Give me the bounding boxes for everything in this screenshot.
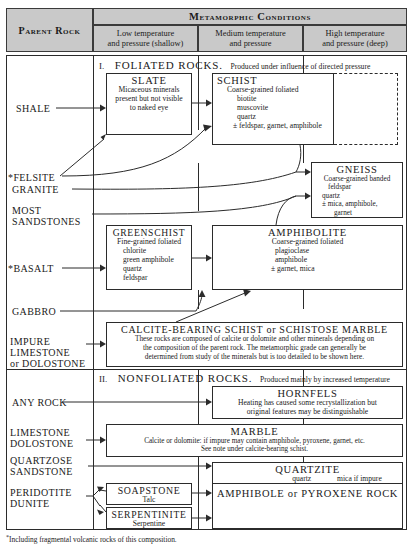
box-quartzite-line2: mica if impure — [337, 474, 382, 483]
box-amphibolite-line4: ± garnet, mica — [213, 265, 402, 274]
metamorphic-rock-chart: Parent Rock Metamorphic Conditions Low t… — [0, 0, 413, 554]
parent-rock-impure-limestone-dolostone: IMPURE LIMESTONE or DOLOSTONE — [10, 336, 85, 369]
fork-peridotite-down — [93, 496, 100, 506]
box-greenschist-line4: quartz — [107, 265, 191, 274]
box-marble-name: MARBLE — [107, 426, 402, 437]
parent-rock-granite: GRANITE — [12, 184, 59, 195]
curve-sandstones-to-gneiss — [92, 196, 296, 214]
curve-granite-to-gneiss — [72, 172, 296, 189]
rule-medium-high-divider-mid — [303, 290, 304, 309]
parent-rock-impure: IMPURE — [10, 336, 50, 347]
header-column-medium: Medium temperature and pressure — [198, 25, 303, 52]
box-gneiss: GNEISS Coarse-grained banded feldspar qu… — [311, 162, 403, 218]
diagonal-calcite-to-amphibolite — [176, 293, 245, 322]
box-marble-line1: Calcite or dolomite: if impure may conta… — [107, 437, 402, 445]
footnote: *Including fragmental volcanic rocks of … — [6, 534, 177, 544]
parent-rock-or-dolostone: or DOLOSTONE — [10, 358, 85, 369]
parent-rock-most-sandstones: MOST SANDSTONES — [12, 205, 81, 227]
box-gneiss-name: GNEISS — [312, 164, 402, 175]
box-amphibole-pyroxene-name: AMPHIBOLE or PYROXENE ROCK — [213, 488, 402, 499]
curve-felsite-to-schist — [62, 128, 206, 176]
parent-rock-shale: SHALE — [16, 103, 50, 114]
box-greenschist: GREENSCHIST Fine-grained foliated chlori… — [106, 225, 192, 290]
arrow-gabbro-to-amphibolite-head — [199, 290, 206, 297]
box-greenschist-line1: Fine-grained foliated — [107, 238, 191, 247]
header-metamorphic-conditions-cell: Metamorphic Conditions — [93, 8, 407, 25]
header-parent-rock-cell: Parent Rock — [6, 8, 93, 52]
section-nonfoliated-tail: Produced mainly by increased temperature — [260, 375, 390, 384]
rule-parent-rock-divider — [93, 55, 94, 530]
box-marble: MARBLE Calcite or dolomite: if impure ma… — [106, 424, 403, 457]
box-calcite-line3: determined from study of the minerals bu… — [107, 353, 402, 362]
parent-rock-most: MOST — [12, 205, 41, 216]
box-serpentinite-line1: Serpentine — [107, 520, 191, 529]
box-hornfels-line2: original features may be distinguishable — [213, 408, 402, 417]
parent-rock-any-rock: ANY ROCK — [12, 397, 67, 408]
header-parent-rock-label: Parent Rock — [19, 25, 81, 36]
parent-rock-sandstone-2: SANDSTONE — [10, 466, 73, 477]
box-calcite-bearing-schist: CALCITE-BEARING SCHIST or SCHISTOSE MARB… — [106, 322, 403, 367]
rule-between-sections — [6, 369, 407, 370]
box-soapstone: SOAPSTONE Talc — [106, 483, 192, 505]
header-column-high-line1: High temperature — [322, 29, 388, 38]
box-schist-line3: muscovite — [213, 104, 333, 113]
header-column-medium-line1: Medium temperature — [215, 29, 285, 38]
section-nonfoliated-numeral: II. — [99, 374, 107, 384]
parent-rock-quartzose-sandstone: QUARTZOSE SANDSTONE — [10, 455, 73, 477]
box-greenschist-line3: green amphibole — [107, 256, 191, 265]
section-nonfoliated-title: NONFOLIATED ROCKS. — [118, 372, 253, 384]
section-heading-nonfoliated: II. NONFOLIATED ROCKS. Produced mainly b… — [99, 372, 390, 384]
box-amphibolite-line2: plagioclase — [213, 247, 402, 256]
curve-gabbro-up — [196, 294, 202, 311]
box-schist-dashed-extension — [334, 73, 398, 145]
parent-rock-felsite: *FELSITE — [8, 172, 55, 183]
parent-rock-limestone: LIMESTONE — [10, 347, 70, 358]
parent-rock-dunite: DUNITE — [10, 498, 50, 509]
fork-peridotite-up — [93, 489, 100, 496]
parent-rock-limestone-dolostone: LIMESTONE DOLOSTONE — [10, 427, 73, 449]
curve-schist-to-gneiss — [296, 145, 301, 172]
parent-rock-sandstones: SANDSTONES — [12, 216, 81, 227]
rule-low-medium-divider-mid — [198, 163, 199, 211]
arrow-to-soapstone-head — [97, 487, 104, 493]
box-schist-line1: Coarse-grained foliated — [213, 86, 333, 95]
footnote-text: Including fragmental volcanic rocks of t… — [9, 535, 177, 544]
header-column-high: High temperature and pressure (deep) — [303, 25, 407, 52]
box-hornfels: HORNFELS Heating has caused some recryst… — [212, 386, 403, 419]
section-heading-foliated: I. FOLIATED ROCKS. Produced under influe… — [99, 59, 370, 71]
parent-rock-limestone-2: LIMESTONE — [10, 427, 70, 438]
parent-rock-peridotite: PERIDOTITE — [10, 487, 72, 498]
rule-low-medium-divider-lower — [198, 290, 199, 309]
parent-rock-dolostone-2: DOLOSTONE — [10, 438, 73, 449]
box-serpentinite: SERPENTINITE Serpentine — [106, 507, 192, 529]
box-gneiss-line3: quartz — [312, 192, 402, 200]
box-amphibolite: AMPHIBOLITE Coarse-grained foliated plag… — [212, 225, 403, 290]
curve-felsite-to-slate — [60, 139, 104, 176]
box-marble-line2: See note under calcite-bearing schist. — [107, 445, 402, 453]
rule-bottom-edge — [6, 529, 407, 530]
rule-left-edge — [6, 55, 7, 530]
arrow-felsite-to-schist-head — [203, 125, 212, 132]
arrow-to-serpentinite-head — [97, 510, 104, 516]
box-gneiss-line1: Coarse-grained banded — [312, 175, 402, 183]
header-column-medium-line2: and pressure — [215, 39, 285, 48]
box-slate-line3: to naked eye — [107, 104, 191, 113]
box-schist: SCHIST Coarse-grained foliated biotite m… — [212, 73, 334, 145]
section-foliated-numeral: I. — [99, 61, 104, 71]
section-foliated-title: FOLIATED ROCKS. — [115, 59, 223, 71]
box-schist-line5: ± feldspar, garnet, amphibole — [213, 122, 333, 131]
header-column-low-line2: and pressure (shallow) — [108, 39, 184, 48]
box-gneiss-line4: ± mica, amphibole, — [312, 200, 402, 208]
header-column-low: Low temperature and pressure (shallow) — [93, 25, 198, 52]
parent-rock-peridotite-dunite: PERIDOTITE DUNITE — [10, 487, 72, 509]
curve-amphibolite-to-gneiss — [276, 196, 296, 225]
box-gneiss-line5: garnet — [312, 209, 402, 217]
box-slate: SLATE Micaceous minerals present but not… — [106, 73, 192, 135]
arrow-calcite-to-amphibolite-head — [243, 289, 251, 297]
box-soapstone-line1: Talc — [107, 496, 191, 505]
box-amphibole-or-pyroxene-rock: AMPHIBOLE or PYROXENE ROCK — [212, 483, 403, 529]
section-foliated-tail: Produced under influence of directed pre… — [230, 62, 370, 71]
header-column-low-line1: Low temperature — [108, 29, 184, 38]
box-greenschist-line5: feldspar — [107, 274, 191, 283]
parent-rock-basalt: *BASALT — [8, 263, 54, 274]
